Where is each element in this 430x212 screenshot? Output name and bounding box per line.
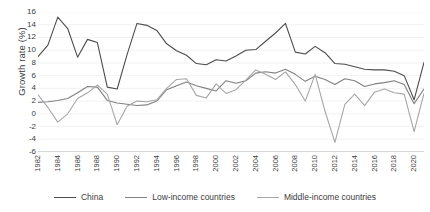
series-line-low-income-countries [38, 69, 424, 105]
y-axis-tick-labels: -6-4-20246810121416 [22, 12, 36, 152]
legend-item-middle-income-countries[interactable]: Middle-income countries [257, 192, 376, 202]
y-tick-label: 6 [32, 72, 36, 80]
series-canvas [38, 12, 424, 152]
y-tick-label: 14 [27, 21, 36, 29]
x-tick-label: 2020 [410, 155, 418, 172]
x-tick-label: 1998 [192, 155, 200, 172]
y-tick-label: 12 [27, 33, 36, 41]
x-tick-label: 1994 [153, 155, 161, 172]
y-tick-label: 10 [27, 46, 36, 54]
plot-area [38, 12, 424, 152]
x-tick-label: 1982 [34, 155, 42, 172]
x-tick-label: 2000 [212, 155, 220, 172]
x-tick-label: 2014 [351, 155, 359, 172]
growth-rate-line-chart: Growth rate (%) -6-4-20246810121416 1982… [0, 0, 430, 212]
y-tick-label: -2 [29, 123, 36, 131]
x-tick-label: 1996 [173, 155, 181, 172]
x-tick-label: 2006 [272, 155, 280, 172]
legend-item-low-income-countries[interactable]: Low-income countries [125, 192, 235, 202]
x-tick-label: 2010 [311, 155, 319, 172]
legend-label: China [81, 192, 103, 202]
x-axis-tick-labels: 1982198419861988199019921994199619982000… [38, 155, 424, 187]
y-tick-label: 2 [32, 97, 36, 105]
y-tick-label: 4 [32, 84, 36, 92]
x-tick-label: 2002 [232, 155, 240, 172]
y-tick-label: 16 [27, 8, 36, 16]
x-tick-label: 1992 [133, 155, 141, 172]
x-tick-label: 2008 [291, 155, 299, 172]
legend-label: Middle-income countries [284, 192, 376, 202]
x-tick-label: 2012 [331, 155, 339, 172]
legend-line-swatch [125, 197, 147, 198]
x-tick-label: 1988 [93, 155, 101, 172]
x-tick-label: 1984 [54, 155, 62, 172]
series-line-middle-income-countries [38, 70, 424, 143]
x-tick-label: 2016 [371, 155, 379, 172]
legend-item-china[interactable]: China [54, 192, 103, 202]
chart-legend: ChinaLow-income countriesMiddle-income c… [0, 192, 430, 202]
legend-label: Low-income countries [152, 192, 235, 202]
legend-line-swatch [54, 197, 76, 198]
y-tick-label: 0 [32, 110, 36, 118]
y-tick-label: 8 [32, 59, 36, 67]
y-tick-label: -4 [29, 135, 36, 143]
x-tick-label: 1990 [113, 155, 121, 172]
legend-line-swatch [257, 197, 279, 198]
x-tick-label: 2004 [252, 155, 260, 172]
x-tick-label: 1986 [74, 155, 82, 172]
x-tick-label: 2018 [390, 155, 398, 172]
